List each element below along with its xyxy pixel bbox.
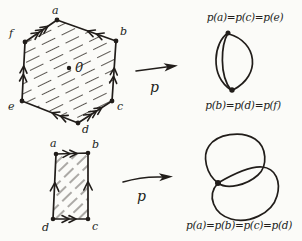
- hexagon-vertex-label-a: a: [52, 4, 59, 17]
- figure-eight-bottom-loop: [212, 167, 278, 220]
- vertex-dot-f: [23, 40, 28, 45]
- bottom-map-label: p: [137, 188, 146, 204]
- vertex-dot-d: [76, 121, 81, 126]
- theta-bottom-vertex-dot: [229, 87, 234, 92]
- quotient-maps-sketch: a b c d e f 0 p p(a)=p(c)=p(e) p(b)=p(d)…: [0, 0, 302, 241]
- vertex-dot-b: [114, 39, 119, 44]
- right-arrow-icon: [136, 67, 168, 71]
- top-map-label: p: [150, 79, 159, 95]
- square-figure: a b d c: [42, 137, 99, 234]
- vertex-dot-d: [51, 217, 56, 222]
- figure-eight: p(a)=p(b)=p(c)=p(d): [186, 134, 292, 231]
- square-vertex-label-b: b: [92, 138, 99, 151]
- top-map-arrow: p: [136, 61, 179, 95]
- theta-left-arc: [216, 33, 231, 90]
- hexagon-vertex-label-d: d: [82, 123, 89, 136]
- theta-right-arc: [229, 34, 253, 90]
- hexagon-vertex-label-f: f: [8, 27, 15, 40]
- vertex-dot-e: [20, 99, 25, 104]
- hexagon-center-label: 0: [75, 60, 83, 75]
- square-outline: [53, 153, 88, 219]
- figure-eight-wedge-dot: [215, 180, 221, 186]
- vertex-dot-b: [86, 151, 91, 156]
- bottom-map-arrow: p: [123, 173, 173, 204]
- vertex-dot-a: [54, 152, 59, 157]
- theta-top-vertex-dot: [226, 31, 231, 36]
- hexagon-vertex-label-b: b: [120, 25, 127, 38]
- hexagon-figure: a b c d e f 0: [8, 4, 127, 136]
- hexagon-vertex-label-e: e: [8, 100, 15, 113]
- theta-middle-arc: [222, 33, 231, 90]
- square-vertex-label-d: d: [42, 221, 49, 234]
- right-arrow-icon: [123, 177, 163, 182]
- vertex-dot-c: [86, 217, 91, 222]
- theta-top-vertex-label: p(a)=p(c)=p(e): [207, 11, 284, 23]
- theta-graph-figure: p(a)=p(c)=p(e) p(b)=p(d)=p(f): [205, 11, 283, 111]
- vertex-dot-c: [110, 99, 115, 104]
- theta-bottom-vertex-label: p(b)=p(d)=p(f): [205, 99, 281, 111]
- figure-eight-vertex-label: p(a)=p(b)=p(c)=p(d): [186, 219, 292, 231]
- vertex-dot-a: [55, 18, 60, 23]
- square-vertex-label-c: c: [92, 220, 98, 233]
- figure-eight-top-loop: [206, 134, 265, 186]
- hexagon-vertex-label-c: c: [117, 100, 123, 113]
- hexagon-center-dot: [67, 66, 71, 70]
- square-vertex-label-a: a: [50, 137, 57, 150]
